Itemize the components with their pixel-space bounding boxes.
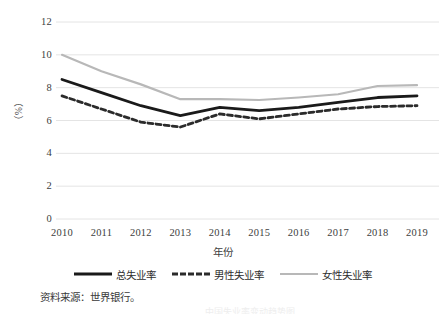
y-axis-tick-label: 6 xyxy=(26,115,52,126)
x-axis-tick-label: 2015 xyxy=(239,227,279,238)
series-line-0 xyxy=(62,79,417,115)
x-axis-tick-label: 2016 xyxy=(279,227,319,238)
legend-item-2[interactable]: 女性失业率 xyxy=(280,267,372,282)
series-line-2 xyxy=(62,55,417,100)
y-axis-tick-label: 2 xyxy=(26,180,52,191)
legend-item-0[interactable]: 总失业率 xyxy=(74,267,156,282)
x-axis-tick-label: 2013 xyxy=(160,227,200,238)
y-axis-tick-label: 0 xyxy=(26,213,52,224)
x-axis-tick-label: 2011 xyxy=(81,227,121,238)
line-chart-svg xyxy=(0,0,445,240)
y-axis-tick-label: 10 xyxy=(26,49,52,60)
legend-swatch-icon xyxy=(74,269,112,279)
y-axis-title: （%） xyxy=(11,91,25,131)
x-axis-tick-label: 2017 xyxy=(318,227,358,238)
x-axis-tick-labels: 2010201120122013201420152016201720182019 xyxy=(0,227,445,243)
y-axis-tick-label: 4 xyxy=(26,147,52,158)
x-axis-title: 年份 xyxy=(0,244,445,259)
legend-item-label: 总失业率 xyxy=(116,267,156,282)
x-axis-tick-label: 2019 xyxy=(397,227,437,238)
source-note: 资料来源：世界银行。 xyxy=(40,289,140,304)
series-lines-group xyxy=(62,55,417,127)
x-axis-tick-label: 2014 xyxy=(200,227,240,238)
unemployment-rate-figure: 121086420 （%） 20102011201220132014201520… xyxy=(0,0,445,314)
y-axis-tick-label: 8 xyxy=(26,82,52,93)
chart-plot-area: 121086420 （%） xyxy=(0,0,445,240)
legend-item-label: 男性失业率 xyxy=(214,267,264,282)
legend-item-1[interactable]: 男性失业率 xyxy=(172,267,264,282)
x-axis-tick-label: 2010 xyxy=(42,227,82,238)
legend-swatch-icon xyxy=(280,269,318,279)
x-axis-tick-label: 2012 xyxy=(121,227,161,238)
y-axis-tick-label: 12 xyxy=(26,16,52,27)
legend-item-label: 女性失业率 xyxy=(322,267,372,282)
figure-caption-cutoff: 中国失业率变动趋势图 xyxy=(205,305,295,314)
x-axis-tick-label: 2018 xyxy=(358,227,398,238)
legend-swatch-icon xyxy=(172,269,210,279)
chart-legend: 总失业率男性失业率女性失业率 xyxy=(0,266,445,282)
gridlines-group xyxy=(56,22,439,219)
